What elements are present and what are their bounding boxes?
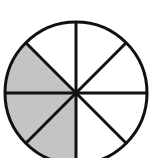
- center-point: [73, 90, 79, 96]
- shaded-sector: [5, 43, 76, 93]
- fraction-circle-diagram: [0, 0, 151, 158]
- shaded-sectors: [5, 43, 76, 158]
